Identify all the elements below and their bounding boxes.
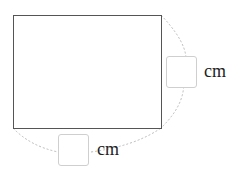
- width-unit-label: cm: [97, 139, 119, 160]
- width-input[interactable]: [58, 134, 89, 166]
- height-unit-label: cm: [204, 61, 226, 82]
- height-input[interactable]: [166, 56, 197, 88]
- rectangle-diagram: [0, 0, 248, 176]
- rectangle: [14, 16, 162, 129]
